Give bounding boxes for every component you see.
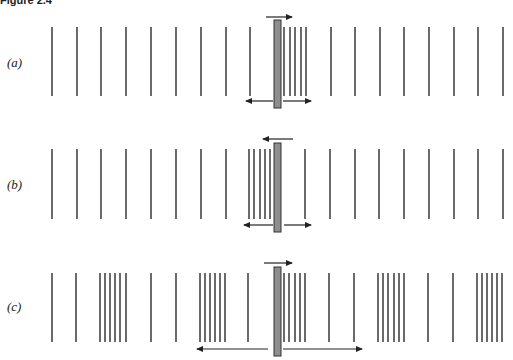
- row-c-group: [52, 263, 502, 356]
- row-b-group: [52, 139, 503, 232]
- moving-source-rod: [274, 20, 281, 108]
- moving-source-rod: [274, 267, 281, 356]
- row-a-group: [52, 17, 503, 108]
- wavefront-diagram: [0, 0, 513, 360]
- moving-source-rod: [274, 143, 281, 232]
